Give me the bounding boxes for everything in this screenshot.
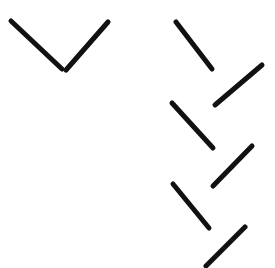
figure-canvas: [0, 0, 275, 268]
canvas-background: [0, 0, 275, 268]
line-figure-svg: [0, 0, 275, 268]
